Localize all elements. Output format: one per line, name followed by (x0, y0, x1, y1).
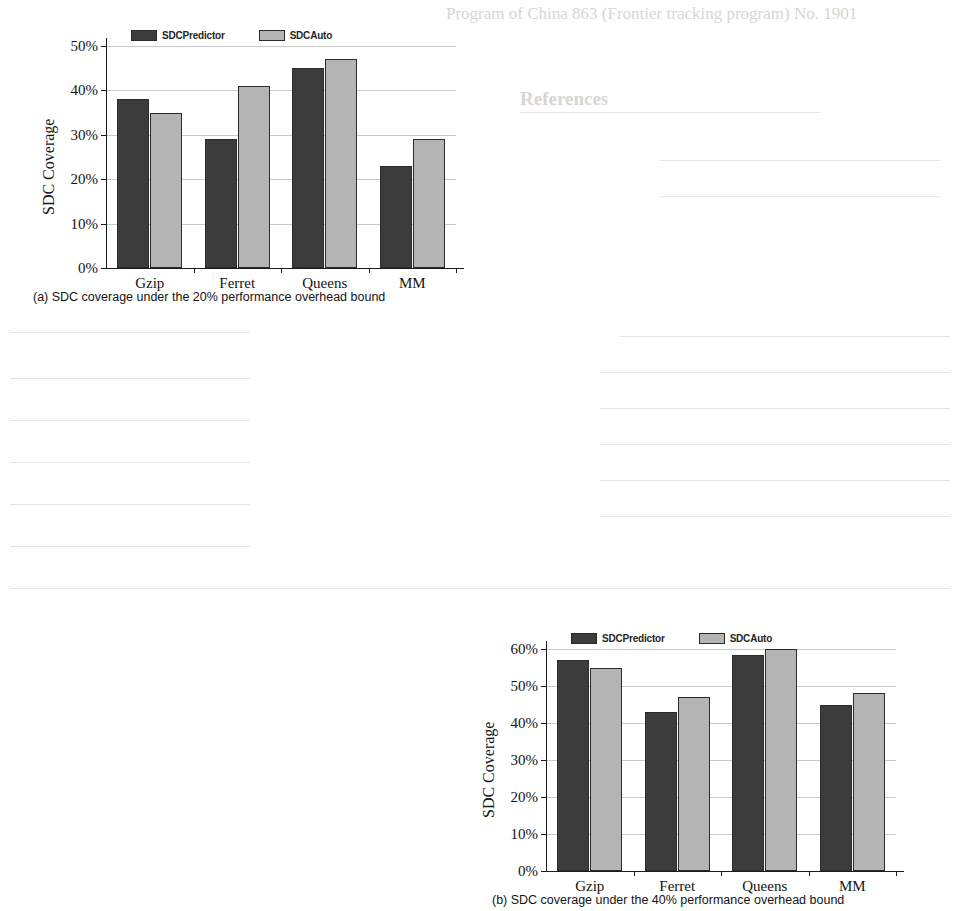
bar-b-mm-sdcauto (853, 693, 885, 871)
legend-entry-sdcauto: SDCAuto (259, 30, 332, 41)
y-tick-label: 10% (48, 215, 98, 232)
x-tick-mark (809, 871, 810, 876)
legend-label: SDCPredictor (162, 30, 225, 41)
legend-swatch-icon (131, 30, 157, 41)
x-tick-mark (634, 871, 635, 876)
y-tick-label: 40% (48, 82, 98, 99)
x-tick-mark (721, 871, 722, 876)
y-tick-label: 0% (48, 260, 98, 277)
legend-b: SDCPredictorSDCAuto (571, 633, 772, 644)
bar-b-gzip-sdcauto (590, 668, 622, 872)
chart-panel-b: 0%10%20%30%40%50%60%GzipFerretQueensMMSD… (0, 603, 973, 911)
x-tick-mark (194, 268, 195, 273)
x-tick-mark (456, 268, 457, 273)
bar-b-mm-sdcpredictor (820, 705, 852, 872)
bar-b-queens-sdcauto (765, 649, 797, 871)
gridline (106, 46, 456, 47)
legend-entry-sdcauto: SDCAuto (699, 633, 772, 644)
y-tick-label: 60% (488, 641, 538, 658)
x-tick-mark (896, 871, 897, 876)
x-axis-line (106, 268, 464, 269)
legend-label: SDCAuto (730, 633, 772, 644)
legend-entry-sdcpredictor: SDCPredictor (131, 30, 225, 41)
legend-label: SDCPredictor (602, 633, 665, 644)
gridline (106, 90, 456, 91)
y-axis-line (106, 38, 107, 268)
x-tick-mark (281, 268, 282, 273)
y-tick-label: 10% (488, 826, 538, 843)
legend-a: SDCPredictorSDCAuto (131, 30, 332, 41)
bar-a-queens-sdcpredictor (292, 68, 324, 268)
bar-b-ferret-sdcpredictor (645, 712, 677, 871)
x-axis-line (546, 871, 904, 872)
bar-b-gzip-sdcpredictor (557, 660, 589, 871)
legend-entry-sdcpredictor: SDCPredictor (571, 633, 665, 644)
y-axis-title-a: SDC Coverage (40, 119, 58, 215)
figure-panels: 0%10%20%30%40%50%GzipFerretQueensMMSDC C… (0, 0, 973, 911)
bar-a-ferret-sdcauto (238, 86, 270, 268)
legend-swatch-icon (699, 633, 725, 644)
bar-a-mm-sdcauto (413, 139, 445, 268)
y-tick-label: 50% (488, 678, 538, 695)
bar-a-ferret-sdcpredictor (205, 139, 237, 268)
bar-a-gzip-sdcauto (150, 113, 182, 268)
y-axis-title-b: SDC Coverage (480, 722, 498, 818)
legend-swatch-icon (259, 30, 285, 41)
y-tick-label: 50% (48, 38, 98, 55)
bar-a-mm-sdcpredictor (380, 166, 412, 268)
gridline (546, 649, 896, 650)
plot-area-a (106, 46, 456, 268)
legend-label: SDCAuto (290, 30, 332, 41)
bar-a-gzip-sdcpredictor (117, 99, 149, 268)
caption-b: (b) SDC coverage under the 40% performan… (492, 893, 844, 907)
bar-b-ferret-sdcauto (678, 697, 710, 871)
x-category-label-mm: MM (399, 275, 426, 292)
caption-a: (a) SDC coverage under the 20% performan… (33, 290, 385, 304)
legend-swatch-icon (571, 633, 597, 644)
y-tick-label: 0% (488, 863, 538, 880)
bar-b-queens-sdcpredictor (732, 655, 764, 871)
bar-a-queens-sdcauto (325, 59, 357, 268)
x-tick-mark (369, 268, 370, 273)
plot-area-b (546, 649, 896, 871)
y-axis-line (546, 641, 547, 871)
